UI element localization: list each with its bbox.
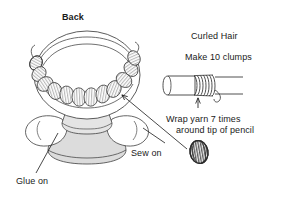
label-wrap-yarn-line1: Wrap yarn 7 times (166, 114, 241, 125)
label-glue-on: Glue on (16, 176, 48, 187)
label-back: Back (62, 12, 84, 23)
finished-clump-sample (188, 139, 210, 165)
label-wrap-yarn-line2: around tip of pencil (176, 125, 254, 136)
label-sew-on: Sew on (131, 148, 162, 159)
label-curled-hair: Curled Hair (191, 31, 238, 42)
pencil-with-yarn (163, 75, 243, 108)
yarn-wrap-coils (194, 75, 220, 102)
label-make-clumps: Make 10 clumps (185, 52, 252, 63)
